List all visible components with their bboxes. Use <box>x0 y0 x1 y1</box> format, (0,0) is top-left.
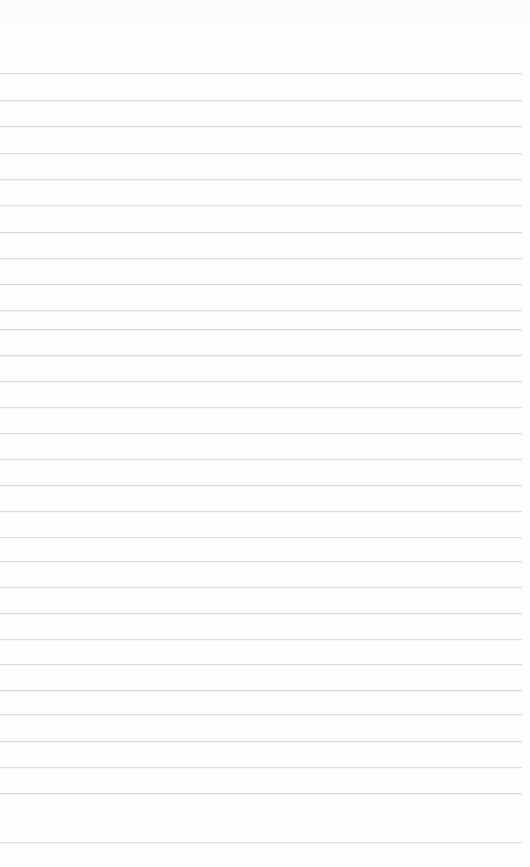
writing-line[interactable] <box>0 489 530 515</box>
writing-line[interactable] <box>0 307 530 333</box>
writing-line[interactable] <box>0 131 530 157</box>
writing-line[interactable] <box>0 104 530 130</box>
writing-line[interactable] <box>0 692 530 718</box>
writing-line[interactable] <box>0 359 530 385</box>
lined-paper-page <box>0 0 530 867</box>
writing-line[interactable] <box>0 157 530 183</box>
writing-line[interactable] <box>0 183 530 209</box>
writing-line[interactable] <box>0 262 530 288</box>
writing-line[interactable] <box>0 210 530 236</box>
writing-line[interactable] <box>0 463 530 489</box>
writing-line[interactable] <box>0 719 530 745</box>
writing-line[interactable] <box>0 51 530 77</box>
writing-line[interactable] <box>0 411 530 437</box>
writing-line[interactable] <box>0 437 530 463</box>
writing-line[interactable] <box>0 78 530 104</box>
writing-line[interactable] <box>0 539 530 565</box>
writing-line[interactable] <box>0 591 530 617</box>
writing-line[interactable] <box>0 745 530 771</box>
writing-line[interactable] <box>0 642 530 668</box>
writing-line[interactable] <box>0 668 530 694</box>
writing-line[interactable] <box>0 820 530 846</box>
writing-line[interactable] <box>0 333 530 359</box>
writing-line[interactable] <box>0 771 530 797</box>
writing-line[interactable] <box>0 515 530 541</box>
writing-line[interactable] <box>0 385 530 411</box>
writing-line[interactable] <box>0 617 530 643</box>
writing-line[interactable] <box>0 236 530 262</box>
writing-line[interactable] <box>0 565 530 591</box>
